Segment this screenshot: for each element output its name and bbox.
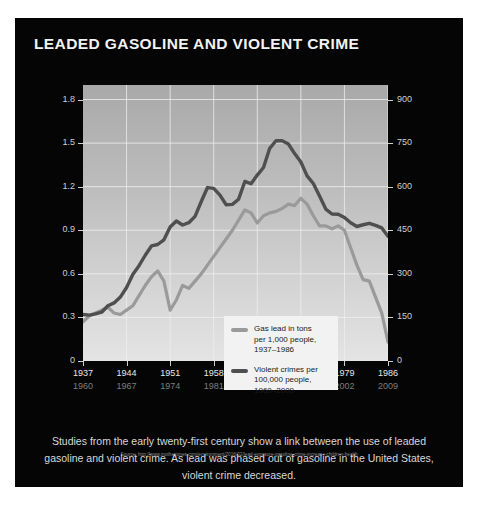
legend-label-line2: 100,000 people, [254, 375, 311, 384]
x-axis-tick-mark [83, 361, 84, 366]
chart-panel: LEADED GASOLINE AND VIOLENT CRIME 00.30.… [15, 18, 463, 487]
x-axis-tick-label-gas-lead-year: 1944 [102, 368, 152, 378]
y-axis-right-tick-label: 300 [397, 268, 437, 278]
legend-label-line1: Violent crimes per [254, 365, 318, 374]
chart-legend: Gas lead in tons per 1,000 people, 1937–… [224, 316, 338, 390]
y-axis-right-tick-mark [388, 230, 393, 231]
x-axis-tick-label-crime-year: 1974 [145, 381, 195, 391]
x-axis-tick-label-gas-lead-year: 1937 [58, 368, 108, 378]
legend-item-gas-lead: Gas lead in tons per 1,000 people, 1937–… [231, 324, 331, 356]
legend-label-line1: Gas lead in tons [254, 324, 312, 333]
y-axis-left-tick-label: 0.3 [35, 311, 75, 321]
y-axis-left-tick-label: 0 [35, 355, 75, 365]
y-axis-right-tick-label: 0 [397, 355, 437, 365]
legend-label-violent-crime: Violent crimes per 100,000 people, 1960–… [254, 365, 318, 397]
legend-swatch-violent-crime [231, 369, 248, 373]
y-axis-right-tick-mark [388, 317, 393, 318]
x-axis-tick-mark [170, 361, 171, 366]
y-axis-left-tick-mark [78, 143, 83, 144]
chart-block: 00.30.60.91.21.51.8 0150300450600750900 … [15, 66, 463, 418]
legend-swatch-gas-lead [231, 328, 248, 332]
x-axis-tick-label-crime-year: 2009 [363, 381, 413, 391]
x-axis-tick-label-gas-lead-year: 1986 [363, 368, 413, 378]
y-axis-right-tick-mark [388, 274, 393, 275]
y-axis-left-tick-label: 1.8 [35, 94, 75, 104]
x-axis-tick-mark [127, 361, 128, 366]
y-axis-left-tick-mark [78, 100, 83, 101]
page-title: LEADED GASOLINE AND VIOLENT CRIME [34, 35, 359, 53]
y-axis-left-tick-label: 0.6 [35, 268, 75, 278]
figure-root: LEADED GASOLINE AND VIOLENT CRIME 00.30.… [0, 0, 479, 513]
x-axis-tick-label-crime-year: 1960 [58, 381, 108, 391]
y-axis-left-tick-mark [78, 274, 83, 275]
y-axis-right-tick-label: 600 [397, 181, 437, 191]
y-axis-left-tick-mark [78, 187, 83, 188]
legend-label-line3: 1937–1986 [254, 345, 294, 354]
y-axis-left-tick-mark [78, 230, 83, 231]
y-axis-right-tick-mark [388, 143, 393, 144]
y-axis-right-tick-label: 900 [397, 94, 437, 104]
y-axis-left-tick-label: 1.5 [35, 137, 75, 147]
y-axis-left-tick-mark [78, 317, 83, 318]
legend-item-violent-crime: Violent crimes per 100,000 people, 1960–… [231, 365, 331, 397]
legend-label-line2: per 1,000 people, [254, 335, 316, 344]
y-axis-right-tick-label: 450 [397, 224, 437, 234]
y-axis-left-tick-label: 0.9 [35, 224, 75, 234]
y-axis-right-tick-mark [388, 187, 393, 188]
y-axis-left-tick-label: 1.2 [35, 181, 75, 191]
x-axis-tick-mark [214, 361, 215, 366]
x-axis-tick-mark [344, 361, 345, 366]
x-axis-tick-mark [388, 361, 389, 366]
figure-caption: Studies from the early twenty-first cent… [41, 433, 437, 484]
legend-label-gas-lead: Gas lead in tons per 1,000 people, 1937–… [254, 324, 316, 356]
y-axis-right-tick-label: 150 [397, 311, 437, 321]
x-axis-tick-label-crime-year: 1967 [102, 381, 152, 391]
y-axis-right-tick-label: 750 [397, 137, 437, 147]
legend-label-line3: 1960–2009 [254, 386, 294, 395]
x-axis-tick-label-gas-lead-year: 1951 [145, 368, 195, 378]
y-axis-right-tick-mark [388, 100, 393, 101]
